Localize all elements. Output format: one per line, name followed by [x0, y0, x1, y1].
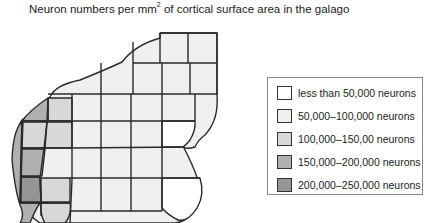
legend-item-150k-200k: 150,000–200,000 neurons	[277, 154, 421, 170]
legend-swatch	[277, 178, 292, 192]
legend-label: less than 50,000 neurons	[298, 87, 416, 99]
cell-100k-4	[41, 178, 70, 202]
cell-100k-5	[41, 203, 71, 223]
legend-item-less-than-50k: less than 50,000 neurons	[277, 85, 416, 101]
cell-100k-3	[45, 122, 72, 148]
legend-swatch	[277, 86, 292, 100]
legend-swatch	[277, 109, 292, 123]
legend-label: 200,000–250,000 neurons	[298, 179, 421, 191]
legend-label: 50,000–100,000 neurons	[298, 110, 415, 122]
legend-label: 100,000–150,00 neurons	[298, 133, 415, 145]
legend: less than 50,000 neurons 50,000–100,000 …	[267, 77, 423, 195]
cell-150k-1	[22, 98, 48, 121]
legend-swatch	[277, 155, 292, 169]
cell-100k-1	[48, 98, 72, 121]
cortex-map	[0, 0, 250, 223]
legend-item-50k-100k: 50,000–100,000 neurons	[277, 108, 415, 124]
cell-100k-2	[22, 122, 47, 148]
legend-swatch	[277, 132, 292, 146]
legend-item-100k-150k: 100,000–150,00 neurons	[277, 131, 415, 147]
cell-white-2	[162, 178, 202, 220]
cell-200k-1	[20, 177, 41, 202]
legend-label: 150,000–200,000 neurons	[298, 156, 421, 168]
legend-item-200k-250k: 200,000–250,000 neurons	[277, 177, 421, 193]
